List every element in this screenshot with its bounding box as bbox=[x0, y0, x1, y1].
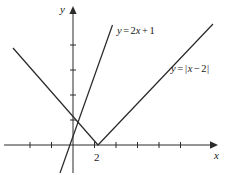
curve-label-abs-bar-right: | bbox=[207, 63, 210, 74]
curve-label-linear-variable: x bbox=[136, 25, 141, 36]
y-axis-label: y bbox=[60, 4, 65, 15]
x-axis-arrowhead bbox=[210, 141, 218, 148]
curve-label-absolute-value: y=|x−2| bbox=[171, 64, 210, 75]
curve-label-abs-minus: − bbox=[192, 63, 201, 74]
absolute-value-curve-y-equals-abs-x-minus-2 bbox=[13, 24, 213, 145]
coordinate-plane-svg bbox=[0, 0, 228, 175]
graph-figure: y x 2 y=2x+1 y=|x−2| bbox=[0, 0, 228, 175]
line-curve-y-equals-2x-plus-1 bbox=[60, 25, 113, 173]
x-tick-label-2: 2 bbox=[94, 152, 100, 163]
curve-label-linear-y: y bbox=[117, 25, 122, 36]
curve-label-linear-constant: 1 bbox=[149, 25, 154, 36]
x-axis-label: x bbox=[214, 150, 219, 161]
curve-label-linear: y=2x+1 bbox=[117, 26, 155, 37]
y-axis-arrowhead bbox=[69, 6, 76, 14]
curve-label-abs-y: y bbox=[171, 63, 176, 74]
curve-label-abs-constant: 2 bbox=[201, 63, 206, 74]
curve-label-abs-equals: = bbox=[176, 63, 185, 74]
curve-label-linear-equals: = bbox=[122, 25, 131, 36]
